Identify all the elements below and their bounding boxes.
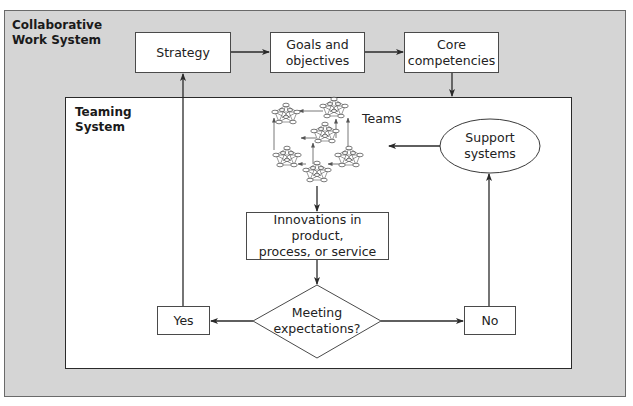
support-systems-label: Support systems xyxy=(440,130,540,162)
teams-label: Teams xyxy=(362,111,402,127)
teams-network-icon xyxy=(272,97,363,182)
diagram-canvas: Collaborative Work System Teaming System… xyxy=(0,0,633,406)
decision-label: Meeting expectations? xyxy=(257,305,377,337)
connectors-layer xyxy=(0,0,633,406)
